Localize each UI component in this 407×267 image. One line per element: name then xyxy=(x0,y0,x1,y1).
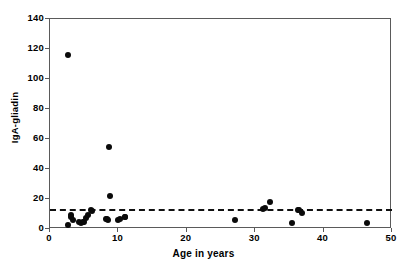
data-point xyxy=(232,217,238,223)
y-tick-label: 140 xyxy=(4,13,44,23)
x-tick-mark xyxy=(323,228,324,232)
data-point xyxy=(106,144,112,150)
data-point xyxy=(89,208,95,214)
y-tick-label: 120 xyxy=(4,43,44,53)
data-point xyxy=(262,205,268,211)
x-axis-title: Age in years xyxy=(0,248,407,259)
x-tick-mark xyxy=(391,228,392,232)
x-tick-label: 40 xyxy=(303,233,343,243)
y-tick-label: 40 xyxy=(4,163,44,173)
y-tick-mark xyxy=(45,168,49,169)
data-point xyxy=(105,217,111,223)
plot-area xyxy=(49,18,391,228)
x-tick-mark xyxy=(186,228,187,232)
x-tick-mark xyxy=(254,228,255,232)
x-tick-label: 0 xyxy=(29,233,69,243)
x-tick-label: 20 xyxy=(166,233,206,243)
data-point xyxy=(107,193,113,199)
x-axis-tick-labels: 01020304050 xyxy=(0,233,407,247)
data-point xyxy=(364,220,370,226)
cutoff-reference-line xyxy=(50,209,392,211)
y-tick-mark xyxy=(45,78,49,79)
data-point xyxy=(267,199,273,205)
x-tick-label: 10 xyxy=(97,233,137,243)
y-axis-tick-labels: 020406080100120140 xyxy=(0,0,44,267)
data-point xyxy=(65,52,71,58)
y-tick-label: 0 xyxy=(4,223,44,233)
y-tick-mark xyxy=(45,18,49,19)
chart-title xyxy=(0,0,407,8)
data-point xyxy=(299,210,305,216)
y-tick-mark xyxy=(45,198,49,199)
x-tick-label: 30 xyxy=(234,233,274,243)
data-point xyxy=(70,217,76,223)
y-axis-title: IgA-gliadin xyxy=(9,73,20,163)
x-tick-mark xyxy=(117,228,118,232)
scatter-chart: 020406080100120140 01020304050 IgA-gliad… xyxy=(0,0,407,267)
y-tick-mark xyxy=(45,108,49,109)
data-point xyxy=(122,214,128,220)
data-point xyxy=(289,220,295,226)
y-tick-label: 20 xyxy=(4,193,44,203)
x-tick-label: 50 xyxy=(371,233,407,243)
y-tick-mark xyxy=(45,48,49,49)
x-tick-mark xyxy=(49,228,50,232)
y-tick-mark xyxy=(45,138,49,139)
